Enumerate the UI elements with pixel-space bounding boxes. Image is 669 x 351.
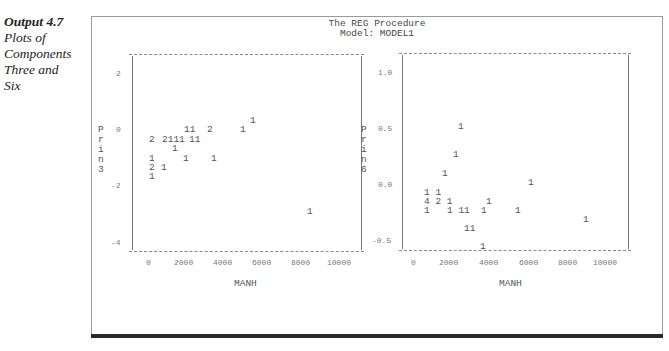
x-tick: 6000 (252, 259, 271, 267)
x-axis-label: MANH (499, 279, 522, 289)
data-point: 1 (481, 206, 487, 216)
x-tick: 0 (411, 259, 416, 267)
data-point: 1 (240, 125, 246, 135)
data-point: 1 (307, 207, 313, 217)
data-point: 1 (161, 163, 167, 173)
caption-title: Output 4.7 (4, 14, 90, 30)
data-point: 1 (515, 206, 521, 216)
x-tick: 10000 (327, 259, 351, 267)
data-point: 1 (480, 242, 486, 252)
right-axis (628, 55, 629, 249)
data-point: 11 (464, 224, 475, 234)
caption-line: Three and (4, 62, 90, 78)
bottom-axis (129, 251, 364, 252)
x-tick: 8000 (558, 259, 577, 267)
y-tick: 1.0 (378, 69, 392, 77)
x-tick: 4000 (479, 259, 498, 267)
data-point: 1 (458, 122, 464, 132)
y-tick: 0.0 (378, 181, 392, 189)
x-tick: 8000 (291, 259, 310, 267)
caption-line: Plots of (4, 30, 90, 46)
data-point: 1 (583, 215, 589, 225)
data-point: 1 (211, 154, 217, 164)
x-tick: 0 (146, 259, 151, 267)
data-point: 2 (149, 135, 155, 145)
left-axis (402, 55, 403, 249)
x-tick: 2000 (174, 259, 193, 267)
data-point: 1 (149, 172, 155, 182)
top-axis (399, 53, 631, 54)
y-axis-label: P r i n 3 (98, 125, 104, 175)
y-axis-label: P r i n 6 (361, 125, 367, 175)
caption-line: Components (4, 46, 90, 62)
y-tick: -2 (111, 182, 121, 190)
y-tick: 0.5 (378, 125, 392, 133)
data-point: 1 (172, 144, 178, 154)
x-tick: 10000 (593, 259, 617, 267)
data-point: 1 (442, 169, 448, 179)
bottom-axis (399, 250, 631, 251)
y-tick: -4 (111, 239, 121, 247)
data-point: 2 (207, 125, 213, 135)
figure-caption: Output 4.7 Plots of Components Three and… (4, 14, 90, 94)
data-point: 1 (424, 206, 430, 216)
y-tick: 2 (116, 70, 121, 78)
plot-prin6-vs-manh: 1.0 0.5 0.0 -0.5 P r i n 6 0 2000 4000 6… (362, 17, 662, 337)
left-axis (132, 56, 133, 250)
caption-line: Six (4, 78, 90, 94)
output-frame: The REG Procedure Model: MODEL1 2 0 -2 -… (91, 16, 663, 338)
data-point: 1 11 (447, 206, 470, 216)
bottom-rule (91, 334, 663, 338)
data-point: 1 (250, 116, 256, 126)
x-tick: 2000 (439, 259, 458, 267)
y-tick: -0.5 (372, 237, 391, 245)
top-axis (129, 54, 364, 55)
plot-prin3-vs-manh: 2 0 -2 -4 P r i n 3 0 2000 4000 6000 800… (92, 17, 382, 337)
x-tick: 6000 (519, 259, 538, 267)
data-point: 1 (183, 154, 189, 164)
x-axis-label: MANH (234, 279, 257, 289)
y-tick: 0 (116, 126, 121, 134)
data-point: 1 (528, 178, 534, 188)
data-point: 1 (453, 150, 459, 160)
data-point: 11 (189, 135, 200, 145)
x-tick: 4000 (213, 259, 232, 267)
